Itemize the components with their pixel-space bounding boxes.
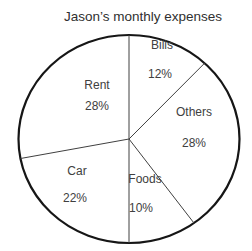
slice-label-bills: Bills (151, 38, 173, 52)
slice-label-others: Others (176, 105, 212, 119)
chart-title: Jason’s monthly expenses (64, 9, 222, 24)
slice-value-foods: 10% (129, 201, 153, 215)
slice-value-others: 28% (182, 136, 206, 150)
pie-chart-figure: Jason’s monthly expenses Bills12%Others2… (0, 0, 252, 251)
pie-chart: Jason’s monthly expenses Bills12%Others2… (0, 0, 252, 251)
slice-label-rent: Rent (84, 78, 110, 92)
slice-value-bills: 12% (148, 67, 172, 81)
slice-label-foods: Foods (128, 172, 161, 186)
slice-value-rent: 28% (85, 99, 109, 113)
slice-label-car: Car (67, 164, 86, 178)
slice-value-car: 22% (63, 191, 87, 205)
